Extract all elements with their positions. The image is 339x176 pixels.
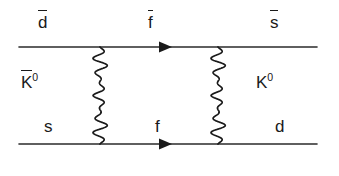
label-right-meson-charge: 0 (267, 71, 273, 83)
top-line-arrowhead (159, 42, 172, 53)
label-right-meson-symbol: K (256, 73, 267, 92)
bottom-line-arrowhead (159, 139, 172, 150)
label-top-middle-symbol: f (148, 14, 153, 31)
label-top-left-symbol: d (38, 14, 47, 31)
label-bottom-right-symbol: d (275, 117, 284, 136)
label-bottom-left-symbol: s (44, 117, 53, 136)
label-left-meson-symbol: K (21, 74, 32, 91)
label-bottom-left-s: s (44, 118, 53, 135)
feynman-diagram-canvas: d f s K0 K0 s f d (0, 0, 339, 176)
label-bottom-middle-symbol: f (155, 117, 160, 136)
label-top-middle-fbar: f (148, 14, 153, 31)
label-right-meson-k0: K0 (256, 74, 273, 91)
right-w-boson-propagator (211, 47, 225, 144)
label-left-meson-charge: 0 (32, 71, 38, 83)
label-top-right-sbar: s (270, 14, 279, 31)
label-left-meson-kbar0: K0 (21, 74, 38, 91)
left-w-boson-propagator (93, 47, 107, 144)
feynman-diagram-svg (0, 0, 339, 176)
label-bottom-middle-f: f (155, 118, 160, 135)
label-top-left-dbar: d (38, 14, 47, 31)
label-top-right-symbol: s (270, 14, 279, 31)
label-bottom-right-d: d (275, 118, 284, 135)
